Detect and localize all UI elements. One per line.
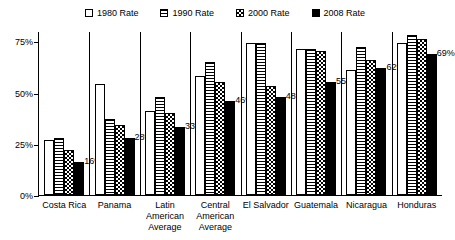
x-axis-category-label: El Salvador <box>241 200 291 233</box>
bars: 46% <box>195 32 235 195</box>
legend-swatch-1980-icon <box>85 9 93 17</box>
bars: 55% <box>296 32 336 195</box>
bar <box>346 70 356 195</box>
bar: 62% <box>376 68 386 195</box>
bar-group: 46% <box>190 32 240 195</box>
bar-group: 16% <box>39 32 89 195</box>
bar <box>306 49 316 195</box>
x-axis-category-label: Panama <box>89 200 139 233</box>
legend-label-1980: 1980 Rate <box>97 8 139 18</box>
bar <box>95 84 105 195</box>
bar <box>366 60 376 195</box>
legend-item-2000: 2000 Rate <box>236 8 290 18</box>
legend-label-2000: 2000 Rate <box>248 8 290 18</box>
bar <box>316 51 326 195</box>
bar-groups: 16%28%33%46%48%55%62%69% <box>39 32 442 195</box>
bar <box>195 76 205 195</box>
bar <box>165 113 175 195</box>
bars: 33% <box>145 32 185 195</box>
x-axis-category-label: Central American Average <box>190 200 240 233</box>
x-axis-category-labels: Costa RicaPanamaLatin American AverageCe… <box>39 200 442 233</box>
legend-label-1990: 1990 Rate <box>172 8 214 18</box>
x-axis-line <box>38 195 442 196</box>
bar: 55% <box>326 82 336 195</box>
bar-group: 69% <box>392 32 442 195</box>
bars: 48% <box>246 32 286 195</box>
y-axis-tick <box>34 196 39 197</box>
bar <box>417 39 427 195</box>
bar: 69% <box>427 54 437 195</box>
bar <box>54 138 64 195</box>
y-axis-tick-label: 50% <box>15 89 33 98</box>
bar-group: 33% <box>140 32 190 195</box>
bars: 16% <box>44 32 84 195</box>
bar-group: 28% <box>89 32 139 195</box>
bar <box>407 35 417 195</box>
bar: 16% <box>74 162 84 195</box>
bar <box>205 62 215 195</box>
bar: 28% <box>125 138 135 195</box>
legend-label-2008: 2008 Rate <box>324 8 366 18</box>
x-axis-category-label: Honduras <box>392 200 442 233</box>
bars: 69% <box>397 32 437 195</box>
bar <box>246 43 256 195</box>
bars: 28% <box>95 32 135 195</box>
legend-swatch-1990-icon <box>160 9 168 17</box>
bar <box>115 125 125 195</box>
legend-swatch-2000-icon <box>236 9 244 17</box>
legend-item-1990: 1990 Rate <box>160 8 214 18</box>
bar <box>266 86 276 195</box>
bar: 48% <box>276 97 286 195</box>
bar: 46% <box>225 101 235 195</box>
bar-value-label: 69% <box>437 49 455 58</box>
bar <box>64 150 74 195</box>
chart-legend: 1980 Rate 1990 Rate 2000 Rate 2008 Rate <box>0 8 450 18</box>
bar <box>397 43 407 195</box>
bar <box>256 43 266 195</box>
bar: 33% <box>175 127 185 195</box>
x-axis-category-label: Nicaragua <box>341 200 391 233</box>
bar <box>356 47 366 195</box>
bar <box>155 97 165 195</box>
x-axis-category-label: Latin American Average <box>140 200 190 233</box>
x-axis-category-label: Guatemala <box>291 200 341 233</box>
bar <box>145 111 155 195</box>
y-axis-tick-label: 75% <box>15 38 33 47</box>
bar-group: 48% <box>241 32 291 195</box>
legend-item-1980: 1980 Rate <box>85 8 139 18</box>
plot-area: 0%25%50%75% 16%28%33%46%48%55%62%69% <box>38 32 442 196</box>
legend-item-2008: 2008 Rate <box>312 8 366 18</box>
y-axis-tick-label: 0% <box>20 192 33 201</box>
bar-group: 62% <box>341 32 391 195</box>
bar <box>296 49 306 195</box>
bars: 62% <box>346 32 386 195</box>
y-axis-tick-label: 25% <box>15 140 33 149</box>
bar <box>44 140 54 195</box>
x-axis-category-label: Costa Rica <box>39 200 89 233</box>
bar <box>215 82 225 195</box>
bar-group: 55% <box>291 32 341 195</box>
legend-swatch-2008-icon <box>312 9 320 17</box>
bar <box>105 119 115 195</box>
